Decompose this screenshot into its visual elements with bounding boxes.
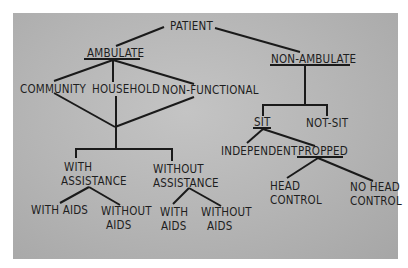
node-sit: SIT — [254, 115, 271, 129]
node-patient: PATIENT — [170, 19, 214, 33]
node-head-control-line1: HEAD — [270, 179, 300, 193]
node-with-assistance-line1: WITH — [64, 160, 92, 174]
node-community: COMMUNITY — [20, 82, 87, 96]
node-wa-with-aids: WITH AIDS — [31, 203, 88, 217]
node-without-assistance-line1: WITHOUT — [153, 162, 204, 176]
node-wa-without-aids-line2: AIDS — [106, 218, 131, 232]
node-woa-without-aids-line2: AIDS — [207, 219, 232, 233]
node-ambulate: AMBULATE — [87, 46, 144, 60]
edge-sit-independent — [247, 129, 263, 143]
node-household: HOUSEHOLD — [92, 82, 160, 96]
edge-propped-headcontrol — [287, 158, 318, 178]
edge-ambulate-community — [54, 60, 113, 81]
node-non-functional: NON-FUNCTIONAL — [162, 83, 259, 97]
node-woa-with-aids-line2: AIDS — [161, 219, 186, 233]
node-no-head-control-line1: NO HEAD — [350, 180, 400, 194]
edge-sit-bracket — [263, 105, 327, 116]
node-with-assistance-line2: ASSISTANCE — [61, 174, 127, 188]
edge-patient-ambulate — [116, 27, 164, 46]
node-independent: INDEPENDENT — [221, 144, 298, 158]
patient-classification-tree: PATIENT AMBULATE NON-AMBULATE COMMUNITY … — [0, 0, 408, 268]
node-woa-without-aids-line1: WITHOUT — [201, 205, 252, 219]
node-woa-with-aids-line1: WITH — [160, 205, 188, 219]
edge-community-junction — [54, 93, 115, 127]
edge-ambulate-nonfunctional — [113, 60, 194, 84]
edge-wa-withaids — [60, 187, 89, 203]
node-non-ambulate: NON-AMBULATE — [271, 52, 356, 66]
node-wa-without-aids-line1: WITHOUT — [101, 204, 152, 218]
edge-wa-withoutaids — [89, 187, 120, 205]
node-not-sit: NOT-SIT — [306, 116, 349, 130]
node-no-head-control-line2: CONTROL — [350, 194, 402, 208]
node-propped: PROPPED — [298, 144, 348, 158]
label-underlines — [84, 59, 350, 157]
edge-woa-withoutaids — [189, 188, 221, 206]
node-without-assistance-line2: ASSISTANCE — [153, 176, 219, 190]
edge-propped-noheadcontrol — [318, 158, 373, 181]
edge-woa-withaids — [173, 188, 189, 204]
node-head-control-line2: CONTROL — [270, 193, 322, 207]
edge-nonfunctional-junction — [115, 97, 194, 127]
edge-patient-non-ambulate — [215, 28, 300, 52]
